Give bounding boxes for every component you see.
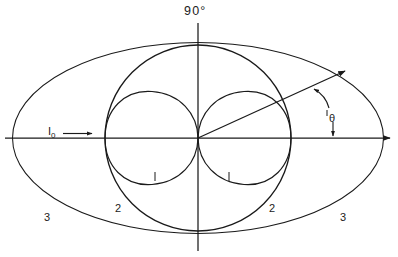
incident-beam-label: I0 [48, 126, 56, 140]
curve-3-left-label: 3 [44, 212, 50, 223]
angle-curved-arrow [314, 89, 329, 108]
curve-2-left-label: 2 [115, 203, 121, 214]
incident-beam-label-sub: 0 [51, 131, 55, 140]
angle-label: θ [329, 113, 335, 124]
top-axis-label: 90° [184, 5, 207, 18]
figure-canvas [0, 0, 398, 257]
polar-scattering-figure: 90° I0 θ 2 2 3 3 [0, 0, 398, 257]
curve-2-right-label: 2 [269, 203, 275, 214]
curve-3-right-label: 3 [340, 212, 346, 223]
